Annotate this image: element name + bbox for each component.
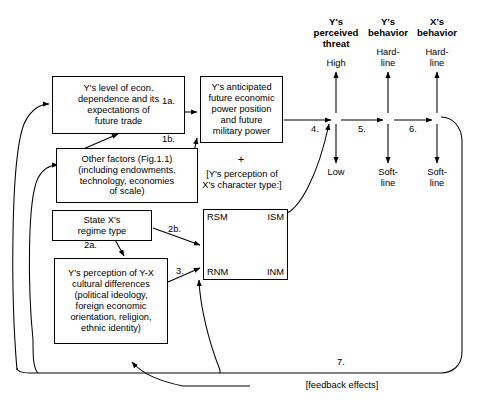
arrow-label-3: 3. bbox=[176, 266, 184, 277]
column-header-perceived-threat: Y's perceived threat bbox=[314, 16, 359, 49]
box-other-factors: Other factors (Fig.1.1) (including endow… bbox=[56, 148, 198, 203]
arrow-label-2a: 2a. bbox=[84, 240, 97, 251]
matrix-cell-rnm: RNM bbox=[207, 267, 228, 277]
axis-top-value-x-behavior: Hard- line bbox=[425, 47, 448, 69]
arrow-label-1b: 1b. bbox=[162, 134, 175, 145]
axis-top-value-threat: High bbox=[326, 58, 345, 69]
box-regime-type: State X's regime type bbox=[52, 210, 152, 241]
matrix-cell-rsm: RSM bbox=[207, 212, 228, 222]
arrow-3 bbox=[168, 268, 200, 282]
arrow-label-4: 4. bbox=[311, 124, 319, 135]
feedback-arrow-to-econ bbox=[13, 104, 49, 370]
box-anticipated-power: Y's anticipated future economic power po… bbox=[200, 76, 283, 143]
arrow-label-7: 7. bbox=[337, 357, 345, 368]
diagram-canvas: Y's level of econ. dependence and its ex… bbox=[0, 0, 486, 404]
axis-bottom-value-y-behavior: Soft- line bbox=[378, 167, 398, 189]
matrix-cell-inm: INM bbox=[267, 267, 284, 277]
matrix-cell-ism: ISM bbox=[267, 212, 284, 222]
axis-top-value-y-behavior: Hard- line bbox=[376, 47, 399, 69]
arrow-matrix-to-4 bbox=[283, 124, 329, 215]
arrow-label-6: 6. bbox=[409, 124, 417, 135]
axis-bottom-value-threat: Low bbox=[327, 167, 344, 178]
character-type-matrix: RSM ISM RNM INM bbox=[203, 209, 288, 280]
feedback-trunk-left-mid bbox=[33, 340, 38, 373]
feedback-trunk-left-lower bbox=[17, 368, 30, 373]
box-cultural-differences: Y's perception of Y-X cultural differenc… bbox=[54, 258, 168, 344]
feedback-effects-caption: [feedback effects] bbox=[306, 380, 379, 391]
column-header-x-behavior: X's behavior bbox=[417, 16, 457, 38]
arrow-label-5: 5. bbox=[358, 124, 366, 135]
column-header-y-behavior: Y's behavior bbox=[368, 16, 408, 38]
plus-sign: + bbox=[238, 153, 244, 166]
axis-bottom-value-x-behavior: Soft- line bbox=[427, 167, 447, 189]
feedback-arrow-to-matrix bbox=[199, 280, 220, 370]
arrow-label-1a: 1a. bbox=[162, 96, 175, 107]
arrow-label-2b: 2b. bbox=[168, 224, 181, 235]
character-type-label: [Y's perception of X's character type:] bbox=[202, 169, 281, 191]
feedback-arrow-to-cultural bbox=[132, 362, 183, 386]
